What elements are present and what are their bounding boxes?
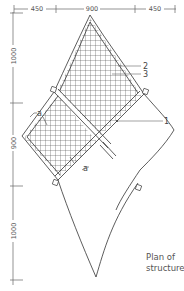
dimension-label: 1000: [10, 48, 18, 65]
section-marker-a: a: [37, 109, 42, 118]
dimension-label: 450: [31, 5, 43, 13]
dimension-label: 450: [149, 5, 161, 13]
bottom-leaf-outline: [58, 180, 138, 277]
caption-line-2: structure: [146, 263, 184, 274]
drawing-caption: Plan of structure: [146, 252, 184, 274]
callout-3: 3: [143, 70, 148, 79]
dimension-label: 900: [86, 5, 98, 13]
callout-1: 1: [164, 117, 169, 126]
structure-plan-drawing: 450 900 450 1000 900 1000: [0, 0, 184, 291]
caption-line-1: Plan of: [146, 252, 184, 263]
dimension-label: 900: [10, 137, 18, 149]
section-marker-a: a: [83, 164, 88, 173]
dimension-label: 1000: [10, 223, 18, 240]
